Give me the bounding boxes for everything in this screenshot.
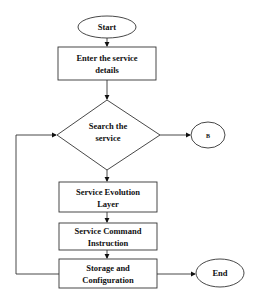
edge-loop-storage-search [16, 135, 59, 274]
evolution-label-line1: Service Evolution [76, 187, 140, 197]
search-label-line2: service [95, 133, 120, 143]
node-service-evolution-layer: Service Evolution Layer [59, 182, 157, 212]
evolution-label-line2: Layer [97, 199, 119, 209]
start-label: Start [98, 22, 117, 32]
command-label-line1: Service Command [75, 226, 142, 236]
search-label-line1: Search the [89, 121, 128, 131]
enter-label-line2: details [95, 65, 119, 75]
node-service-command-instruction: Service Command Instruction [59, 223, 157, 250]
node-start: Start [78, 16, 136, 38]
command-label-line2: Instruction [88, 238, 129, 248]
b-label: B [206, 133, 210, 139]
node-search-service: Search the service [57, 100, 160, 170]
node-b: B [191, 122, 225, 148]
end-label: End [212, 268, 227, 278]
flowchart: Start Enter the service details Search t… [0, 0, 255, 306]
node-storage-configuration: Storage and Configuration [59, 259, 157, 288]
storage-label-line1: Storage and [86, 263, 130, 273]
node-enter-service-details: Enter the service details [58, 47, 156, 80]
enter-label-line1: Enter the service [76, 53, 137, 63]
node-end: End [196, 259, 244, 287]
storage-label-line2: Configuration [82, 275, 134, 285]
